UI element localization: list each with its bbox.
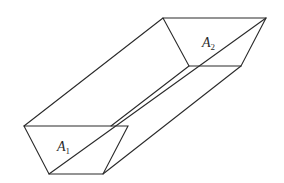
trapezoidal-channel-diagram: A1 A2 [0, 0, 284, 183]
diagram-canvas: A1 A2 [0, 0, 284, 183]
diagonal-line [49, 18, 266, 174]
label-a2: A2 [201, 35, 215, 52]
inner-bottom-left-edge [111, 66, 189, 126]
top-left-edge [24, 18, 163, 126]
label-a1: A1 [56, 139, 70, 156]
